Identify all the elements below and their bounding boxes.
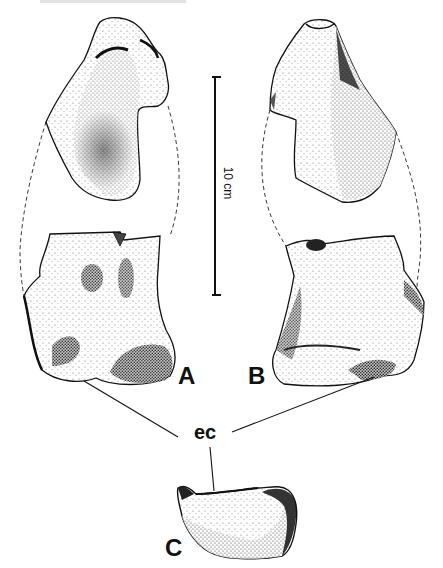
- panel-label-b: B: [248, 364, 265, 388]
- panel-label-a: A: [178, 364, 195, 388]
- panel-label-c: C: [165, 536, 182, 560]
- ec-annotation-label: ec: [194, 422, 216, 442]
- panel-c-bone: [177, 486, 296, 558]
- scale-bar-label: 10 cm: [221, 167, 235, 200]
- panel-a-lower-bone: [24, 232, 175, 385]
- figure: A B C ec 10 cm: [0, 0, 443, 568]
- ec-leader-lines: [84, 377, 374, 491]
- panel-b-lower-bone: [273, 236, 424, 386]
- panel-b-upper-bone: [270, 20, 396, 203]
- panel-a-upper-bone: [46, 18, 169, 201]
- scale-bar: [212, 77, 221, 295]
- caption-strip: [40, 0, 186, 3]
